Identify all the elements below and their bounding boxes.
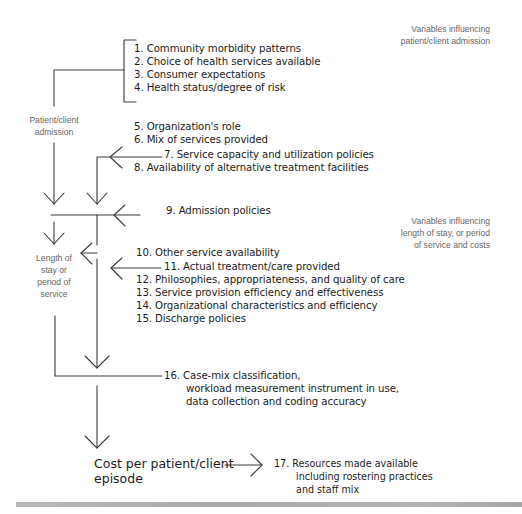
list-item: 12. Philosophies, appropriateness, and q…	[136, 273, 405, 286]
line-los-to-item16	[55, 316, 162, 376]
note-line: Variables influencing	[401, 23, 490, 35]
node-line: Length of	[22, 252, 86, 264]
item-text: Case-mix classification,	[183, 370, 300, 381]
list-item: 8. Availability of alternative treatment…	[134, 161, 369, 174]
item-number: 7.	[164, 149, 174, 160]
diagram-canvas: Variables influencing patient/client adm…	[0, 0, 522, 514]
node-line: stay or	[22, 264, 86, 276]
item-text: Community morbidity patterns	[147, 43, 301, 54]
list-item: 7. Service capacity and utilization poli…	[164, 148, 374, 161]
note-line: length of stay, or period	[401, 227, 490, 239]
item-number: 10.	[136, 247, 152, 258]
item-number: 3.	[134, 69, 144, 80]
list-item: 5. Organization's role	[134, 120, 268, 133]
note-stay-variables: Variables influencing length of stay, or…	[401, 215, 490, 251]
item-number: 1.	[134, 43, 144, 54]
item-text: and staff mix	[274, 483, 433, 496]
node-length-of-stay: Length of stay or period of service	[22, 252, 86, 300]
item-text: Organization's role	[147, 121, 241, 132]
node-line: admission	[22, 126, 86, 138]
item-number: 9.	[166, 205, 176, 216]
item-number: 2.	[134, 56, 144, 67]
item-number: 12.	[136, 274, 152, 285]
list-item: 13. Service provision efficiency and eff…	[136, 286, 405, 299]
node-line: episode	[94, 471, 234, 486]
item-text: workload measurement instrument in use,	[164, 382, 399, 395]
list-item: 3. Consumer expectations	[134, 68, 320, 81]
item-17-resources: 17. Resources made available including r…	[274, 457, 433, 496]
node-line: service	[22, 288, 86, 300]
item-list-service: 5. Organization's role 6. Mix of service…	[134, 120, 268, 146]
node-line: period of	[22, 276, 86, 288]
item-number: 13.	[136, 287, 152, 298]
item-number: 8.	[134, 162, 144, 173]
item-number: 14.	[136, 300, 152, 311]
item-text: Organizational characteristics and effic…	[155, 300, 377, 311]
item-text: Service capacity and utilization policie…	[177, 149, 374, 160]
node-line: Cost per patient/client	[94, 456, 234, 471]
item-16-case-mix: 16. Case-mix classification, workload me…	[164, 369, 399, 408]
item-text: Service provision efficiency and effecti…	[155, 287, 383, 298]
item-text: Admission policies	[179, 205, 271, 216]
note-line: of service and costs	[401, 239, 490, 251]
item-number: 15.	[136, 313, 152, 324]
list-item: 11. Actual treatment/care provided	[164, 260, 340, 273]
item-text: Health status/degree of risk	[147, 82, 286, 93]
note-line: patient/client admission	[401, 35, 490, 47]
item-text: data collection and coding accuracy	[164, 395, 399, 408]
item-text: Other service availability	[155, 247, 280, 258]
list-item: 2. Choice of health services available	[134, 55, 320, 68]
item-list-stay: 12. Philosophies, appropriateness, and q…	[136, 273, 405, 325]
connector-bracket-to-admission	[54, 70, 124, 106]
item-list-admission: 1. Community morbidity patterns 2. Choic…	[134, 42, 320, 94]
item-text: Mix of services provided	[147, 134, 268, 145]
item-text: Consumer expectations	[147, 69, 266, 80]
node-line: Patient/client	[22, 114, 86, 126]
node-patient-admission: Patient/client admission	[22, 114, 86, 138]
footer-divider	[16, 502, 522, 507]
item-text: Discharge policies	[155, 313, 246, 324]
list-item: 4. Health status/degree of risk	[134, 81, 320, 94]
list-item: 6. Mix of services provided	[134, 133, 268, 146]
item-number: 5.	[134, 121, 144, 132]
list-item: 15. Discharge policies	[136, 312, 405, 325]
node-cost-per-episode: Cost per patient/client episode	[94, 456, 234, 486]
item-text: Availability of alternative treatment fa…	[147, 162, 369, 173]
item-number: 17.	[274, 458, 289, 469]
item-number: 4.	[134, 82, 144, 93]
item-number: 16.	[164, 370, 180, 381]
item-text: Actual treatment/care provided	[183, 261, 340, 272]
list-item: 10. Other service availability	[136, 246, 280, 259]
item-number: 6.	[134, 134, 144, 145]
list-item: 9. Admission policies	[166, 204, 271, 217]
list-item: 14. Organizational characteristics and e…	[136, 299, 405, 312]
list-item: 1. Community morbidity patterns	[134, 42, 320, 55]
item-text: Philosophies, appropriateness, and quali…	[155, 274, 405, 285]
item-text: Resources made available	[292, 458, 418, 469]
note-line: Variables influencing	[401, 215, 490, 227]
item-text: including rostering practices	[274, 470, 433, 483]
item-number: 11.	[164, 261, 180, 272]
note-admission-variables: Variables influencing patient/client adm…	[401, 23, 490, 47]
item-text: Choice of health services available	[147, 56, 321, 67]
